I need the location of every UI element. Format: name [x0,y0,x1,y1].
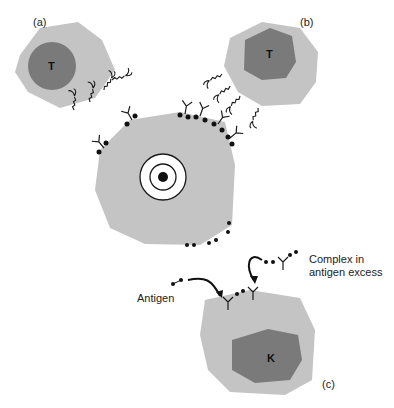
t-cell-a-label: T [48,60,55,72]
t-cell-a [15,22,133,110]
antigen-arrow [188,279,220,296]
k-cell-label: K [267,352,275,364]
complex-label-line1: Complex in [309,253,364,266]
target-cell [92,100,243,247]
target-center-dot [158,172,168,182]
antigen-molecule [171,278,183,286]
panel-c-label: (c) [322,378,335,391]
t-cell-b [202,22,318,131]
panel-b-label: (b) [300,16,313,29]
panel-a-label: (a) [33,16,46,29]
antigen-label: Antigen [137,292,174,305]
k-cell [200,287,315,395]
t-cell-b-label: T [266,48,273,60]
complex-molecule [264,250,298,270]
diagram-canvas [0,0,394,408]
complex-label-line2: antigen excess [309,266,382,279]
